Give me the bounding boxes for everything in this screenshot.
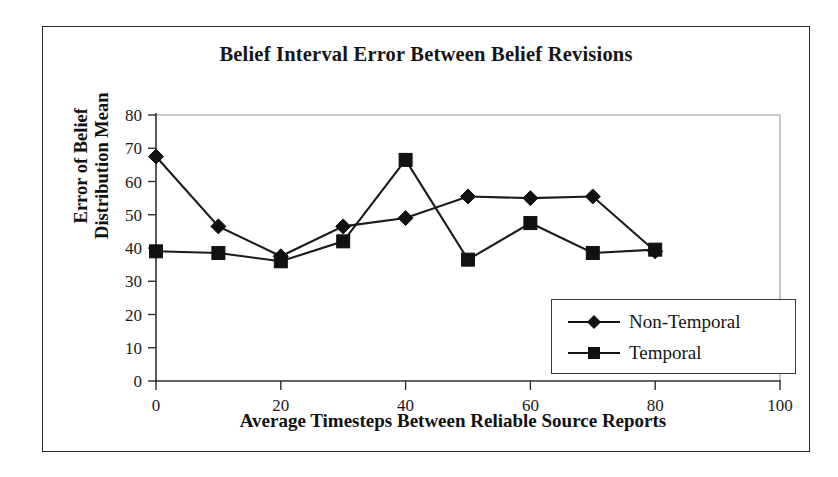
y-tick-label: 50: [125, 206, 142, 225]
data-point-square: [462, 253, 475, 266]
data-point-square: [524, 217, 537, 230]
y-tick-label: 40: [125, 239, 142, 258]
legend-item-temporal[interactable]: Temporal: [566, 337, 795, 368]
data-point-diamond: [461, 189, 476, 204]
data-point-square: [212, 246, 225, 259]
figure-page: Belief Interval Error Between Belief Rev…: [0, 0, 838, 477]
y-tick-label: 20: [125, 306, 142, 325]
y-tick-label: 80: [125, 106, 142, 125]
data-point-square: [649, 243, 662, 256]
data-point-diamond: [523, 191, 538, 206]
data-point-square: [337, 235, 350, 248]
y-tick-label: 0: [134, 372, 143, 391]
data-point-square: [150, 245, 163, 258]
data-point-diamond: [336, 219, 351, 234]
legend[interactable]: Non-Temporal Temporal: [551, 299, 796, 374]
legend-label-non-temporal: Non-Temporal: [629, 311, 741, 333]
data-point-diamond: [398, 211, 413, 226]
series-layer: [149, 149, 663, 268]
legend-item-non-temporal[interactable]: Non-Temporal: [566, 306, 795, 337]
y-tick-label: 70: [125, 139, 142, 158]
y-tick-label: 60: [125, 173, 142, 192]
data-point-square: [399, 153, 412, 166]
data-point-square: [586, 246, 599, 259]
x-axis-ticks: [156, 381, 780, 390]
y-axis-tick-labels: 01020304050607080: [125, 106, 142, 391]
plot-area: 01020304050607080 020406080100: [43, 27, 811, 453]
legend-label-temporal: Temporal: [629, 342, 702, 364]
figure-frame: Belief Interval Error Between Belief Rev…: [42, 26, 810, 452]
diamond-marker-icon: [566, 313, 622, 331]
y-tick-label: 10: [125, 339, 142, 358]
data-point-square: [274, 255, 287, 268]
square-marker-icon: [566, 344, 622, 362]
x-axis-title: Average Timesteps Between Reliable Sourc…: [123, 410, 783, 432]
y-tick-label: 30: [125, 272, 142, 291]
series-line-non-temporal: [156, 157, 655, 257]
